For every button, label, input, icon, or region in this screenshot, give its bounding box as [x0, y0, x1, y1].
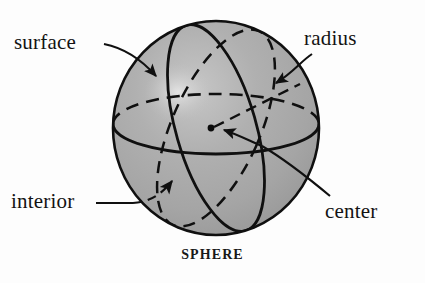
label-surface: surface: [14, 32, 76, 53]
figure-page: surface radius interior center SPHERE: [0, 0, 425, 283]
label-radius: radius: [304, 28, 357, 49]
center-dot: [208, 125, 215, 132]
sphere-body: [113, 21, 319, 235]
label-center: center: [325, 201, 378, 222]
sphere-highlight: [144, 62, 212, 122]
figure-caption: SPHERE: [0, 247, 425, 263]
label-interior: interior: [11, 191, 74, 212]
sphere-outline: [113, 21, 319, 235]
